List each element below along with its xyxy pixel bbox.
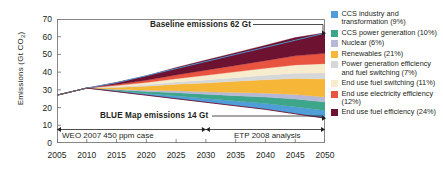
x-tick-label: 2005: [41, 150, 73, 160]
x-tick-label: 2015: [101, 150, 133, 160]
legend-label: CCS power generation (10%): [342, 29, 437, 37]
x-tick-label: 2040: [249, 150, 281, 160]
legend-item[interactable]: CCS industry and transformation (9%): [331, 10, 443, 27]
y-tick-label: 30: [26, 85, 52, 95]
legend-item[interactable]: Power generation efficiency and fuel swi…: [331, 60, 443, 77]
legend-item[interactable]: CCS power generation (10%): [331, 29, 443, 37]
x-tick-label: 2030: [190, 150, 222, 160]
x-tick-label: 2025: [160, 150, 192, 160]
legend-swatch-icon: [331, 51, 338, 58]
legend-swatch-icon: [331, 61, 338, 68]
x-tick-label: 2010: [71, 150, 103, 160]
plot-area: [57, 19, 325, 143]
x-tick-label: 2020: [130, 150, 162, 160]
chart-figure: Emissions (Gt CO2) 706050403020100 20052…: [0, 0, 443, 172]
x-tick-label: 2035: [220, 150, 252, 160]
range-annotation-etp-label: ETP 2008 analysis: [234, 131, 301, 140]
legend-label: CCS industry and transformation (9%): [342, 10, 443, 27]
legend-item[interactable]: End use fuel switching (11%): [331, 79, 443, 87]
legend-label: Power generation efficiency and fuel swi…: [342, 60, 443, 77]
legend-item[interactable]: Nuclear (6%): [331, 39, 443, 47]
y-tick-label: 40: [26, 67, 52, 77]
y-tick-label: 50: [26, 49, 52, 59]
y-tick-label: 10: [26, 120, 52, 130]
legend-swatch-icon: [331, 109, 338, 116]
historic-emissions-line: [57, 88, 87, 95]
y-tick-label: 60: [26, 32, 52, 42]
legend-item[interactable]: Renewables (21%): [331, 50, 443, 58]
range-annotation-weo-label: WEO 2007 450 ppm case: [62, 131, 154, 140]
bluemap-callout-label: BLUE Map emissions 14 Gt: [100, 111, 208, 120]
x-tick-label: 2045: [279, 150, 311, 160]
chart-legend: CCS industry and transformation (9%)CCS …: [331, 10, 443, 119]
legend-label: Renewables (21%): [342, 50, 404, 58]
legend-swatch-icon: [331, 30, 338, 37]
legend-swatch-icon: [331, 11, 338, 18]
legend-label: End use fuel efficiency (24%): [342, 108, 436, 116]
legend-swatch-icon: [331, 40, 338, 47]
legend-item[interactable]: End use fuel efficiency (24%): [331, 108, 443, 116]
y-tick-label: 20: [26, 103, 52, 113]
y-tick-label: 70: [26, 14, 52, 24]
legend-item[interactable]: End use electricity efficiency (12%): [331, 90, 443, 107]
stacked-area-plot: [57, 19, 325, 143]
legend-swatch-icon: [331, 80, 338, 87]
x-tick-label: 2050: [309, 150, 341, 160]
legend-label: End use fuel switching (11%): [342, 79, 436, 87]
y-axis-title: Emissions (Gt CO2): [16, 4, 25, 134]
legend-label: Nuclear (6%): [342, 39, 385, 47]
legend-swatch-icon: [331, 91, 338, 98]
legend-label: End use electricity efficiency (12%): [342, 90, 443, 107]
baseline-callout-label: Baseline emissions 62 Gt: [150, 20, 251, 29]
y-tick-label: 0: [26, 138, 52, 148]
